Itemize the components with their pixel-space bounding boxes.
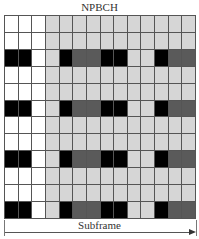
grid-cell xyxy=(87,202,101,219)
grid-cell xyxy=(60,33,74,50)
grid-cell xyxy=(101,134,115,151)
grid-cell xyxy=(141,84,155,101)
grid-cell xyxy=(87,134,101,151)
grid-cell xyxy=(101,50,115,67)
grid-cell xyxy=(128,134,142,151)
grid-cell xyxy=(182,50,196,67)
grid-cell xyxy=(60,16,74,33)
subframe-label: Subframe xyxy=(0,219,199,232)
grid-cell xyxy=(169,202,183,219)
grid-cell xyxy=(73,151,87,168)
grid-cell xyxy=(73,134,87,151)
grid-cell xyxy=(169,134,183,151)
grid-cell xyxy=(19,117,33,134)
grid-cell xyxy=(128,101,142,118)
grid-cell xyxy=(169,33,183,50)
grid-cell xyxy=(5,33,19,50)
grid-cell xyxy=(141,168,155,185)
grid-cell xyxy=(73,84,87,101)
grid-cell xyxy=(141,185,155,202)
grid-cell xyxy=(169,50,183,67)
grid-cell xyxy=(60,151,74,168)
grid-cell xyxy=(5,16,19,33)
grid-cell xyxy=(101,185,115,202)
grid-cell xyxy=(141,202,155,219)
grid-cell xyxy=(101,101,115,118)
grid-cell xyxy=(141,117,155,134)
grid-cell xyxy=(32,202,46,219)
grid-cell xyxy=(32,151,46,168)
grid-cell xyxy=(182,16,196,33)
grid-cell xyxy=(169,101,183,118)
grid-cell xyxy=(5,101,19,118)
grid-cell xyxy=(114,134,128,151)
grid-cell xyxy=(46,84,60,101)
grid-cell xyxy=(46,134,60,151)
grid-cell xyxy=(32,185,46,202)
grid-cell xyxy=(128,33,142,50)
grid-cell xyxy=(46,16,60,33)
grid-cell xyxy=(60,117,74,134)
grid-cell xyxy=(73,50,87,67)
grid-cell xyxy=(5,67,19,84)
grid-cell xyxy=(155,134,169,151)
grid-cell xyxy=(114,16,128,33)
grid-cell xyxy=(155,33,169,50)
grid-cell xyxy=(155,101,169,118)
grid-cell xyxy=(87,185,101,202)
grid-cell xyxy=(114,117,128,134)
grid-cell xyxy=(32,67,46,84)
grid-cell xyxy=(73,185,87,202)
grid-cell xyxy=(128,185,142,202)
grid-cell xyxy=(87,84,101,101)
grid-cell xyxy=(169,151,183,168)
resource-grid xyxy=(4,15,196,219)
grid-cell xyxy=(169,185,183,202)
grid-cell xyxy=(155,151,169,168)
grid-cell xyxy=(87,33,101,50)
subframe-arrow-line xyxy=(5,232,191,233)
grid-cell xyxy=(19,185,33,202)
grid-cell xyxy=(19,33,33,50)
grid-cell xyxy=(182,185,196,202)
grid-cell xyxy=(101,33,115,50)
grid-cell xyxy=(87,101,101,118)
grid-cell xyxy=(5,50,19,67)
grid-cell xyxy=(128,202,142,219)
grid-cell xyxy=(155,185,169,202)
grid-cell xyxy=(114,84,128,101)
grid-cell xyxy=(60,168,74,185)
grid-cell xyxy=(32,101,46,118)
arrow-right-icon xyxy=(189,229,196,235)
grid-cell xyxy=(60,67,74,84)
grid-cell xyxy=(19,84,33,101)
grid-cell xyxy=(155,84,169,101)
grid-cell xyxy=(169,84,183,101)
grid-cell xyxy=(141,50,155,67)
grid-cell xyxy=(19,202,33,219)
grid-cell xyxy=(46,185,60,202)
grid-cell xyxy=(114,202,128,219)
grid-cell xyxy=(182,33,196,50)
grid-cell xyxy=(101,84,115,101)
grid-cell xyxy=(73,117,87,134)
grid-cell xyxy=(46,101,60,118)
grid-cell xyxy=(101,151,115,168)
grid-cell xyxy=(19,168,33,185)
grid-cell xyxy=(128,84,142,101)
grid-cell xyxy=(128,117,142,134)
grid-cell xyxy=(155,67,169,84)
grid-cell xyxy=(60,101,74,118)
grid-cell xyxy=(32,168,46,185)
grid-cell xyxy=(73,101,87,118)
grid-cell xyxy=(182,84,196,101)
diagram-title: NPBCH xyxy=(0,0,199,14)
grid-cell xyxy=(19,50,33,67)
grid-cell xyxy=(182,202,196,219)
grid-cell xyxy=(46,33,60,50)
grid-cell xyxy=(60,185,74,202)
grid-cell xyxy=(5,134,19,151)
grid-cell xyxy=(32,84,46,101)
grid-cell xyxy=(182,67,196,84)
grid-cell xyxy=(73,168,87,185)
